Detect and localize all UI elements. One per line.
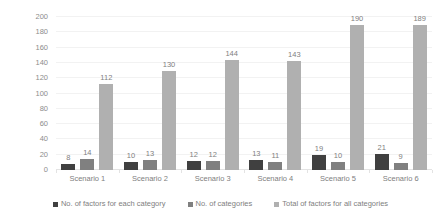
legend-swatch-icon	[188, 202, 193, 207]
bar-wrapper: 130	[162, 17, 176, 170]
bar[interactable]	[312, 155, 326, 170]
bars: 1212144	[181, 17, 244, 170]
y-axis-tick-label: 140	[35, 59, 48, 67]
bar-groups: 8141121013130121214413111431910190219189	[56, 17, 432, 170]
bar-value-label: 10	[127, 152, 135, 160]
y-axis-tick-label: 80	[40, 105, 48, 113]
legend-swatch-icon	[274, 202, 279, 207]
bar-value-label: 144	[225, 50, 238, 58]
bar-wrapper: 13	[249, 17, 263, 170]
y-axis-tick-labels: 200180160140120100806040200	[26, 17, 52, 170]
bar-group: 1013130	[119, 17, 182, 170]
bar-wrapper: 12	[187, 17, 201, 170]
x-axis-tick-label: Scenario 3	[181, 172, 244, 186]
bar-wrapper: 143	[287, 17, 301, 170]
bars: 219189	[369, 17, 432, 170]
bars: 1311143	[244, 17, 307, 170]
bar[interactable]	[287, 61, 301, 170]
bar-group: 1910190	[307, 17, 370, 170]
bar-wrapper: 21	[375, 17, 389, 170]
bar-value-label: 9	[399, 153, 403, 161]
bar-wrapper: 19	[312, 17, 326, 170]
bar-value-label: 14	[83, 149, 91, 157]
x-axis-tick-label: Scenario 4	[244, 172, 307, 186]
bar[interactable]	[99, 84, 113, 170]
y-axis-tick-label: 0	[44, 166, 48, 174]
x-axis-tick-labels: Scenario 1Scenario 2Scenario 3Scenario 4…	[56, 172, 432, 186]
bar[interactable]	[413, 25, 427, 170]
bar[interactable]	[394, 163, 408, 170]
bar[interactable]	[187, 161, 201, 170]
bar-wrapper: 10	[124, 17, 138, 170]
y-axis-tick-label: 20	[40, 151, 48, 159]
x-axis-tick-label: Scenario 2	[119, 172, 182, 186]
plot-area: 8141121013130121214413111431910190219189	[56, 17, 432, 170]
y-axis-tick-label: 120	[35, 74, 48, 82]
y-axis-tick-label: 200	[35, 13, 48, 21]
bar-value-label: 130	[163, 61, 176, 69]
bar[interactable]	[350, 25, 364, 170]
bar-value-label: 189	[413, 15, 426, 23]
bar-value-label: 11	[271, 152, 279, 160]
bar[interactable]	[268, 162, 282, 170]
bar-wrapper: 11	[268, 17, 282, 170]
bar[interactable]	[206, 161, 220, 170]
bar[interactable]	[331, 162, 345, 170]
bar-value-label: 112	[100, 74, 112, 82]
bar-value-label: 12	[209, 151, 217, 159]
bar-wrapper: 144	[225, 17, 239, 170]
chart-legend: No. of factors for each categoryNo. of c…	[0, 197, 441, 211]
y-axis-tick-label: 40	[40, 136, 48, 144]
bar[interactable]	[143, 160, 157, 170]
bar-value-label: 10	[334, 152, 342, 160]
y-axis-tick-label: 180	[35, 29, 48, 37]
bar-wrapper: 10	[331, 17, 345, 170]
bar-value-label: 13	[146, 150, 154, 158]
bar-wrapper: 190	[350, 17, 364, 170]
bar-value-label: 190	[351, 15, 364, 23]
bar-value-label: 21	[378, 144, 386, 152]
x-axis-tick-mark	[432, 170, 433, 173]
bar-wrapper: 8	[61, 17, 75, 170]
bar-wrapper: 12	[206, 17, 220, 170]
bar-group: 1311143	[244, 17, 307, 170]
x-axis-tick-label: Scenario 5	[307, 172, 370, 186]
bar-group: 1212144	[181, 17, 244, 170]
bar-wrapper: 9	[394, 17, 408, 170]
x-axis-tick-label: Scenario 6	[369, 172, 432, 186]
bar[interactable]	[249, 160, 263, 170]
legend-item[interactable]: No. of factors for each category	[53, 200, 166, 208]
bar-group: 814112	[56, 17, 119, 170]
bars: 814112	[56, 17, 119, 170]
x-axis-tick-label: Scenario 1	[56, 172, 119, 186]
y-axis-tick-label: 100	[35, 90, 48, 98]
legend-label: No. of factors for each category	[61, 200, 166, 208]
bar[interactable]	[162, 71, 176, 170]
bar[interactable]	[124, 162, 138, 170]
bar-wrapper: 13	[143, 17, 157, 170]
bar-value-label: 13	[252, 150, 260, 158]
legend-item[interactable]: No. of categories	[188, 200, 253, 208]
bar-wrapper: 112	[99, 17, 113, 170]
bars: 1910190	[307, 17, 370, 170]
y-axis-tick-label: 60	[40, 120, 48, 128]
bar[interactable]	[375, 154, 389, 170]
legend-swatch-icon	[53, 202, 58, 207]
bar-value-label: 143	[288, 51, 301, 59]
bar[interactable]	[225, 60, 239, 170]
bar-wrapper: 189	[413, 17, 427, 170]
bar-wrapper: 14	[80, 17, 94, 170]
bar-chart: Number of factors / categories 200180160…	[0, 0, 441, 218]
bars: 1013130	[119, 17, 182, 170]
bar-group: 219189	[369, 17, 432, 170]
legend-label: No. of categories	[196, 200, 253, 208]
bar-value-label: 19	[315, 145, 323, 153]
legend-item[interactable]: Total of factors for all categories	[274, 200, 388, 208]
bar[interactable]	[80, 159, 94, 170]
bar-value-label: 12	[190, 151, 198, 159]
bar-value-label: 8	[66, 154, 70, 162]
y-axis-tick-label: 160	[35, 44, 48, 52]
legend-label: Total of factors for all categories	[282, 200, 388, 208]
